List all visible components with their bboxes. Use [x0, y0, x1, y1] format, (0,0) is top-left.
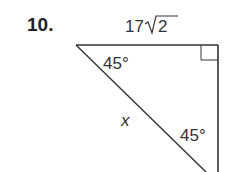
hypotenuse-label: x [120, 111, 130, 130]
radicand-text: 2 [158, 17, 167, 36]
hypotenuse [76, 45, 206, 172]
top-side-label: 17 2 [125, 16, 178, 36]
angle-label-bottom: 45° [180, 126, 206, 145]
right-angle-marker [201, 45, 218, 60]
triangle-diagram: 17 2 45° 45° x [0, 0, 227, 172]
angle-label-top-left: 45° [103, 54, 129, 73]
coefficient-text: 17 [125, 17, 144, 36]
